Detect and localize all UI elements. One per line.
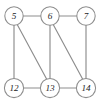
graph-edge-5-13 (17, 25, 46, 79)
graph-node-5: 5 (5, 7, 23, 25)
graph-edge-6-14 (53, 25, 82, 79)
node-label-12: 12 (10, 83, 19, 93)
graph-node-7: 7 (77, 7, 95, 25)
graph-node-13: 13 (40, 78, 59, 97)
node-label-6: 6 (48, 11, 53, 21)
graph-node-6: 6 (41, 7, 59, 25)
graph-node-12: 12 (4, 78, 23, 97)
graph-diagram: 567121314 (0, 0, 99, 103)
graph-node-14: 14 (76, 78, 95, 97)
node-label-13: 13 (46, 83, 55, 93)
node-label-7: 7 (84, 11, 89, 21)
graph-canvas: 567121314 (0, 0, 99, 103)
edge-layer (14, 16, 86, 88)
node-label-5: 5 (12, 11, 17, 21)
node-label-14: 14 (82, 83, 91, 93)
